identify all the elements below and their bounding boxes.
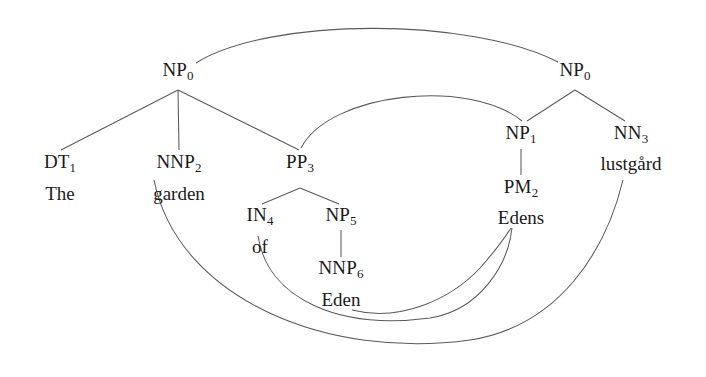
node-nnp2: NNP2 — [156, 152, 201, 174]
edge-np0-nnp2 — [178, 90, 179, 150]
arc-pp3-np1 — [301, 96, 522, 148]
arc-garden-lustgard — [154, 180, 623, 344]
edge-tnp0-tnp1 — [527, 90, 575, 121]
alignment-arcs — [154, 28, 623, 343]
node-dt1: DT1 — [44, 152, 76, 174]
word-the: The — [45, 184, 75, 203]
node-nnp6: NNP6 — [318, 258, 363, 280]
node-np0-source: NP0 — [162, 60, 193, 82]
edge-pp3-np5 — [300, 188, 339, 204]
word-lustgard: lustgård — [600, 154, 661, 173]
arc-eden-edens — [352, 228, 511, 313]
node-pm2: PM2 — [504, 177, 538, 199]
word-garden: garden — [153, 184, 205, 203]
node-np5: NP5 — [325, 205, 356, 227]
node-np1-target: NP1 — [505, 123, 536, 145]
word-eden: Eden — [321, 290, 360, 309]
edge-np0-pp3 — [178, 90, 299, 150]
alignment-parse-tree-figure: NP0 DT1 NNP2 PP3 IN4 NP5 NNP6 The garden… — [0, 0, 706, 377]
node-in4: IN4 — [247, 205, 274, 227]
node-pp3: PP3 — [286, 152, 314, 174]
word-of: of — [252, 237, 268, 256]
edge-pp3-in4 — [262, 188, 300, 204]
node-np0-target: NP0 — [559, 60, 590, 82]
tree-edges-and-alignment-arcs — [0, 0, 706, 377]
node-nn3: NN3 — [614, 123, 648, 145]
edge-np0-dt1 — [61, 90, 178, 150]
edge-tnp0-nn3 — [575, 90, 625, 121]
arc-np0-np0 — [196, 28, 558, 63]
word-edens: Edens — [498, 208, 544, 227]
